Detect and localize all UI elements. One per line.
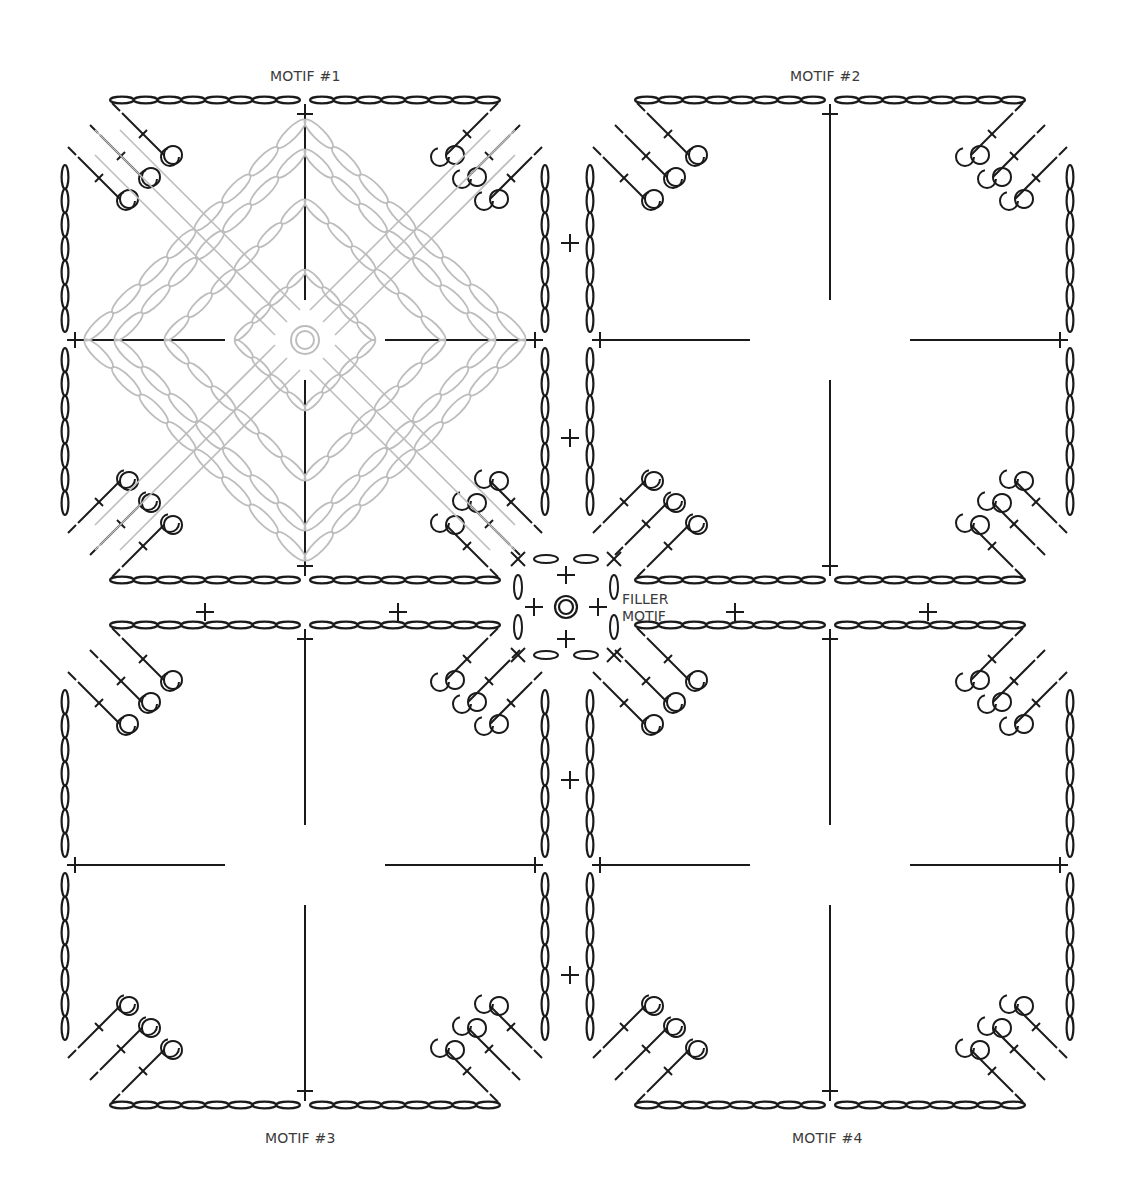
filler-motif-label: FILLERMOTIF (622, 591, 668, 625)
filler-label-line1: FILLER (622, 591, 668, 607)
motif-label: MOTIF #4 (792, 1130, 863, 1146)
join-stitches (196, 234, 937, 984)
motif-3 (62, 622, 549, 1109)
filler-label-line2: MOTIF (622, 608, 666, 624)
motif-label: MOTIF #2 (790, 68, 861, 84)
crochet-chart (0, 0, 1133, 1204)
filler-motif (511, 552, 621, 662)
motif-2 (587, 97, 1074, 584)
motif-1 (62, 97, 549, 584)
motif-4 (587, 622, 1074, 1109)
motif-label: MOTIF #3 (265, 1130, 336, 1146)
motif-label: MOTIF #1 (270, 68, 341, 84)
